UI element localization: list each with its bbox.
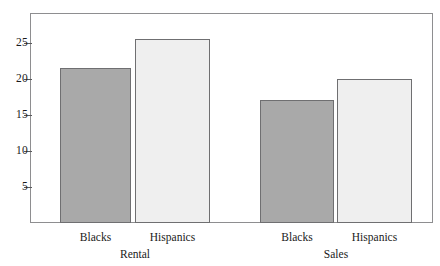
y-tick-label-15: 15: [2, 109, 28, 121]
bar-label-rental-blacks: Blacks: [60, 231, 131, 243]
bar-label-rental-hispanics: Hispanics: [135, 231, 210, 243]
bar-sales-hispanics: [337, 79, 412, 223]
bar-rental-blacks: [60, 68, 131, 223]
bar-sales-blacks: [260, 100, 334, 223]
bar-label-sales-hispanics: Hispanics: [337, 231, 412, 243]
bar-label-sales-blacks: Blacks: [260, 231, 334, 243]
y-tick-label-25: 25: [2, 37, 28, 49]
group-label-rental: Rental: [60, 248, 210, 260]
y-tick-label-20: 20: [2, 73, 28, 85]
bar-rental-hispanics: [135, 39, 210, 223]
bar-chart: 25 20 15 10 5 Blacks Hispanics Blacks Hi…: [0, 0, 440, 266]
y-tick-label-5: 5: [2, 181, 28, 193]
group-label-sales: Sales: [260, 248, 412, 260]
y-tick-label-10: 10: [2, 145, 28, 157]
